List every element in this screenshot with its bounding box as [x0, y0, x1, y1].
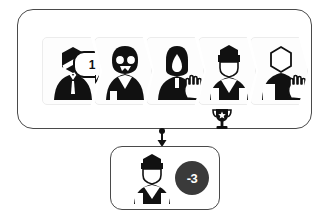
badge-value: -3: [187, 172, 198, 185]
capped-figure-avatar: [131, 153, 173, 205]
down-arrow-icon: [155, 128, 169, 148]
score-badge-icon: -3: [175, 161, 209, 195]
pipeline-step-3[interactable]: [146, 37, 204, 105]
pipeline-step-4[interactable]: 4: [198, 37, 256, 105]
pipeline-step-2[interactable]: 3: [94, 37, 152, 105]
capped-figure-avatar: [207, 44, 251, 102]
bubble-value: 1: [89, 59, 96, 71]
pipeline-step-5[interactable]: [250, 37, 308, 105]
candidate-pipeline-panel: 1: [17, 9, 312, 129]
pipeline-step-1[interactable]: 1: [42, 37, 100, 105]
woman-glasses-avatar: [103, 44, 147, 102]
pipeline-row: 1: [42, 37, 324, 105]
trophy-star-icon: [211, 107, 233, 131]
hand-gesture-icon: [287, 74, 309, 100]
diagram-canvas: 1: [0, 0, 329, 221]
result-panel: -3: [110, 146, 220, 210]
